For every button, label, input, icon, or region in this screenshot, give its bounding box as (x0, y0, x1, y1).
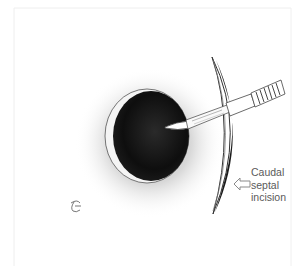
left-arrow-icon (234, 178, 250, 190)
label-line-1: Caudal (251, 166, 286, 179)
surgical-illustration: Caudal septal incision (0, 0, 308, 271)
illustration-canvas (0, 0, 308, 271)
caudal-septal-incision-label: Caudal septal incision (251, 166, 286, 204)
nasal-cavity (105, 89, 189, 183)
label-line-2: septal (251, 179, 286, 192)
label-line-3: incision (251, 191, 286, 204)
artist-monogram-icon (71, 201, 81, 212)
